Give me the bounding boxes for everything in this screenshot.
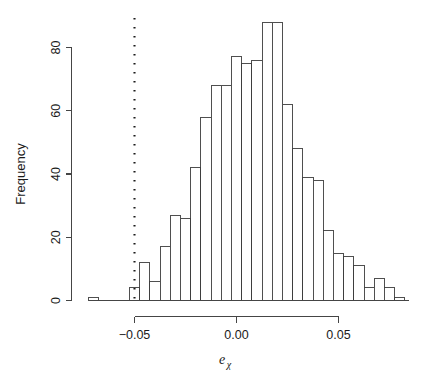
x-tick-label: 0.05 — [326, 328, 350, 342]
histogram-bar — [262, 22, 272, 300]
e-chi-axis-ticks — [135, 317, 339, 323]
histogram-bar — [384, 288, 394, 301]
histogram-bar — [374, 278, 384, 300]
histogram-bar — [221, 85, 231, 300]
x-tick-label: −0.05 — [119, 328, 151, 342]
e-chi-axis-tick-labels: −0.050.000.05 — [119, 328, 351, 342]
frequency-axis-ticks — [66, 48, 72, 301]
histogram-bar — [252, 60, 262, 300]
histogram-bar — [231, 57, 241, 301]
histogram-bar — [242, 63, 252, 300]
y-tick-label: 0 — [49, 297, 63, 304]
histogram-bar — [180, 218, 190, 300]
histogram-bar — [272, 22, 282, 300]
histogram-bar — [344, 256, 354, 300]
histogram-bar — [160, 247, 170, 301]
x-axis-label: e — [219, 352, 225, 367]
histogram-figure: 020406080 −0.050.000.05 Frequency e χ — [0, 0, 422, 383]
histogram-bar — [364, 288, 374, 301]
histogram-bar — [211, 85, 221, 300]
y-tick-label: 60 — [49, 104, 63, 118]
histogram-bar — [313, 180, 323, 300]
histogram-bar — [140, 263, 150, 301]
histogram-bar — [170, 215, 180, 300]
histogram-bar — [282, 104, 292, 300]
histogram-bars — [89, 22, 409, 300]
histogram-bar — [191, 168, 201, 301]
x-axis-label-subscript: χ — [226, 359, 232, 370]
histogram-bar — [333, 253, 343, 300]
x-tick-label: 0.00 — [224, 328, 248, 342]
histogram-bar — [354, 266, 364, 301]
y-tick-label: 40 — [49, 167, 63, 181]
y-tick-label: 80 — [49, 41, 63, 55]
histogram-bar — [293, 149, 303, 301]
histogram-plot: 020406080 −0.050.000.05 Frequency e χ — [0, 0, 422, 383]
histogram-bar — [129, 288, 139, 301]
histogram-bar — [323, 231, 333, 301]
frequency-axis-tick-labels: 020406080 — [49, 41, 63, 304]
histogram-bar — [303, 177, 313, 300]
y-tick-label: 20 — [49, 230, 63, 244]
histogram-bar — [201, 117, 211, 300]
histogram-bar — [150, 282, 160, 301]
y-axis-label: Frequency — [13, 143, 28, 205]
